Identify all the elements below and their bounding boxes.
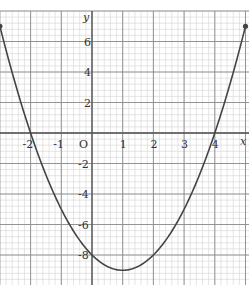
y-tick-label: 2 [84, 97, 91, 110]
x-tick-label: -2 [23, 138, 34, 151]
x-tick-label: 2 [150, 138, 157, 151]
x-tick-label: 3 [181, 138, 188, 151]
graph-chart: -2-11234642-2-4-6-8 x y O [0, 0, 249, 285]
origin-label: O [79, 138, 88, 151]
tick-labels: -2-11234642-2-4-6-8 [23, 36, 219, 263]
y-axis-label: y [82, 11, 90, 24]
curve-endpoints [0, 24, 248, 29]
endpoint-dot [0, 24, 3, 29]
x-axis-label: x [240, 135, 247, 148]
y-tick-label: -2 [78, 158, 89, 171]
y-tick-label: -4 [78, 188, 89, 201]
endpoint-dot [243, 24, 248, 29]
x-tick-label: 1 [120, 138, 127, 151]
x-tick-label: -1 [53, 138, 64, 151]
y-tick-label: -6 [78, 219, 89, 232]
y-tick-label: 4 [84, 66, 91, 79]
y-tick-label: 6 [84, 36, 91, 49]
